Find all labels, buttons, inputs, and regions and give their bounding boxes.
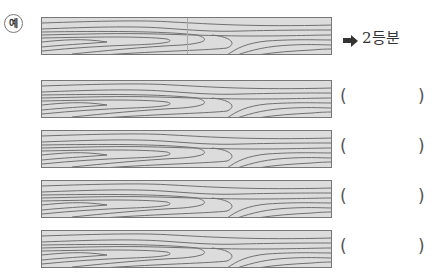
wood-grain-icon xyxy=(42,181,332,218)
wood-grain-icon xyxy=(42,81,332,118)
answer-close-paren: ) xyxy=(418,86,425,106)
answer-open-paren: ( xyxy=(340,136,347,156)
division-line xyxy=(187,18,188,54)
example-badge: 예 xyxy=(4,14,23,33)
example-answer: 2등분 xyxy=(343,26,400,47)
answer-close-paren: ) xyxy=(418,186,425,206)
answer-open-paren: ( xyxy=(340,236,347,256)
plank-4 xyxy=(41,230,332,268)
example-answer-text: 2등분 xyxy=(362,29,400,47)
answer-open-paren: ( xyxy=(340,186,347,206)
wood-grain-icon xyxy=(42,231,332,268)
example-plank xyxy=(41,17,332,55)
answer-open-paren: ( xyxy=(340,86,347,106)
wood-grain-icon xyxy=(42,131,332,168)
plank-1 xyxy=(41,80,332,118)
plank-3 xyxy=(41,180,332,218)
answer-close-paren: ) xyxy=(418,136,425,156)
answer-close-paren: ) xyxy=(418,236,425,256)
arrow-right-icon xyxy=(343,35,358,47)
plank-2 xyxy=(41,130,332,168)
